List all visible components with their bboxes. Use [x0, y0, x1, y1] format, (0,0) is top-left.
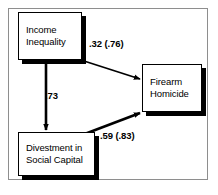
- node-firearm-homicide-line2: Homicide: [150, 88, 201, 101]
- path-coefficient-divestment-to-firearm: .59 (.83): [100, 130, 134, 141]
- path-coefficient-income-to-divestment: .73: [45, 90, 58, 101]
- node-divestment-social-capital-line1: Divestment in: [26, 142, 94, 155]
- path-diagram-figure: Income Inequality Firearm Homicide Dives…: [0, 0, 218, 195]
- node-income-inequality[interactable]: Income Inequality: [18, 12, 82, 60]
- node-divestment-social-capital[interactable]: Divestment in Social Capital: [18, 132, 95, 176]
- node-divestment-social-capital-line2: Social Capital: [26, 154, 94, 167]
- node-firearm-homicide-line1: Firearm: [150, 76, 201, 89]
- path-coefficient-income-to-firearm: .32 (.76): [89, 38, 123, 49]
- arrow-income-to-firearm: [84, 61, 140, 79]
- node-firearm-homicide[interactable]: Firearm Homicide: [142, 64, 202, 112]
- node-income-inequality-line1: Income: [26, 24, 81, 37]
- node-income-inequality-line2: Inequality: [26, 36, 81, 49]
